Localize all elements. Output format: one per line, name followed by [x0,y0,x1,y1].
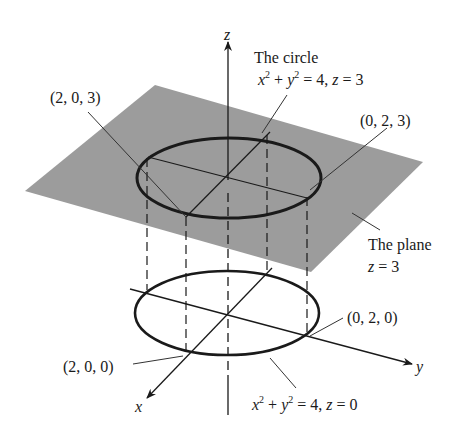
leader-line-200 [133,356,183,364]
point-label-2-0-0: (2, 0, 0) [63,358,114,376]
z-axis-label: z [223,26,231,43]
point-label-0-2-0: (0, 2, 0) [347,309,398,327]
point-label-0-2-3: (0, 2, 3) [360,112,411,130]
lower-circle [135,271,319,355]
upper-circle-title: The circle [254,49,318,66]
y-axis-label: y [414,358,424,376]
diagram-canvas: z x y The circle x2 + y2 = 4, z = 3 (2, … [0,0,474,438]
x-axis [147,268,272,398]
x-axis-label: x [134,398,142,415]
point-label-2-0-3: (2, 0, 3) [50,89,101,107]
leader-line-lower-circle [270,358,296,388]
plane-label-line1: The plane [368,236,432,254]
upper-circle-equation: x2 + y2 = 4, z = 3 [257,69,364,89]
plane-label-line2: z = 3 [367,258,399,275]
lower-circle-equation: x2 + y2 = 4, z = 0 [251,394,358,414]
y-axis [130,289,412,364]
